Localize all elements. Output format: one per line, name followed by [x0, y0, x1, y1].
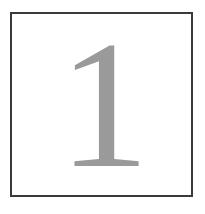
frame-inner-plate: 1: [12, 14, 191, 195]
page-number: 1: [12, 30, 191, 179]
border-frame: 1: [10, 12, 193, 197]
page-root: 1: [0, 0, 205, 214]
